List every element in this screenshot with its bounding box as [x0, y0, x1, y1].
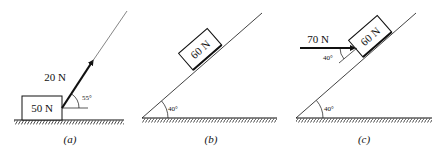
angle-arc: [340, 48, 344, 59]
caption-c: (c): [358, 133, 371, 146]
force-label: 20 N: [44, 71, 66, 83]
angle-label: 40°: [323, 54, 333, 62]
ground-hatch: [14, 121, 124, 125]
force-label: 70 N: [307, 33, 329, 45]
incline-angle-arc: [317, 101, 324, 119]
caption-a: (a): [64, 133, 77, 146]
incline-surface: [142, 13, 262, 118]
ground-hatch: [296, 119, 432, 123]
angle-arc: [72, 94, 79, 108]
incline-surface: [296, 13, 416, 118]
ground-hatch: [142, 119, 277, 123]
panel-c: 40° 60 N 70 N 40° (c): [296, 13, 432, 146]
incline-angle-label: 40°: [324, 105, 334, 113]
force-line-extension: [92, 11, 127, 62]
caption-b: (b): [205, 133, 218, 146]
force-diagram: 50 N 20 N 55° (a) 40° 60 N (b): [0, 0, 443, 152]
panel-b: 40° 60 N (b): [142, 13, 277, 146]
panel-a: 50 N 20 N 55° (a): [14, 11, 127, 146]
incline-angle-label: 40°: [168, 105, 178, 113]
block-weight-label: 50 N: [31, 102, 53, 114]
angle-label: 55°: [82, 94, 92, 102]
